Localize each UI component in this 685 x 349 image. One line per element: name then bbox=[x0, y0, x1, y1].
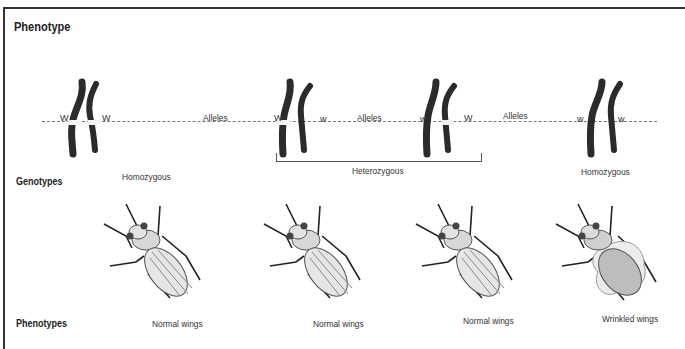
allele-label: W bbox=[274, 113, 283, 123]
genotypes-row-label: Genotypes bbox=[16, 176, 63, 187]
allele-label: W bbox=[60, 113, 69, 123]
allele-label: W bbox=[464, 113, 473, 123]
alleles-label: Alleles bbox=[203, 112, 228, 123]
phenotype-label: Wrinkled wings bbox=[602, 313, 658, 324]
fly-wrinkled-wings-icon bbox=[548, 196, 663, 306]
fly-normal-wings-icon bbox=[256, 196, 366, 306]
chromosome-pair-1 bbox=[60, 82, 120, 162]
genotype-heterozygous: Heterozygous bbox=[352, 165, 404, 176]
alleles-label: Alleles bbox=[357, 112, 382, 123]
allele-label: w bbox=[420, 114, 427, 124]
chromosome-pair-4 bbox=[578, 82, 638, 162]
phenotype-label: Normal wings bbox=[463, 315, 514, 326]
figure-title: Phenotype bbox=[14, 20, 70, 34]
alleles-label: Alleles bbox=[503, 110, 528, 121]
allele-label: w bbox=[577, 114, 584, 124]
phenotype-label: Normal wings bbox=[152, 318, 203, 329]
phenotype-label: Normal wings bbox=[313, 318, 364, 329]
fly-normal-wings-icon bbox=[96, 196, 206, 306]
allele-label: w bbox=[320, 114, 327, 124]
allele-dashed-line bbox=[42, 121, 657, 122]
fly-normal-wings-icon bbox=[408, 196, 518, 306]
genotype-homozygous-left: Homozygous bbox=[122, 171, 171, 182]
heterozygous-bracket bbox=[276, 153, 482, 162]
phenotypes-row-label: Phenotypes bbox=[16, 318, 67, 329]
allele-label: w bbox=[618, 114, 625, 124]
allele-label: W bbox=[102, 113, 111, 123]
genotype-homozygous-right: Homozygous bbox=[581, 166, 630, 177]
